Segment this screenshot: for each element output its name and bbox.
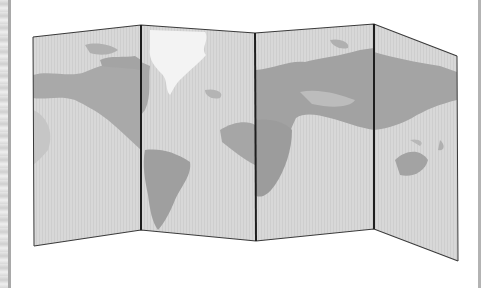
fold-line-2	[255, 33, 256, 241]
folded-world-map	[0, 0, 486, 288]
map-panel-3	[252, 20, 377, 245]
map-panel-1	[30, 20, 145, 250]
map-panel-2	[138, 20, 258, 245]
map-panel-4	[372, 20, 462, 265]
